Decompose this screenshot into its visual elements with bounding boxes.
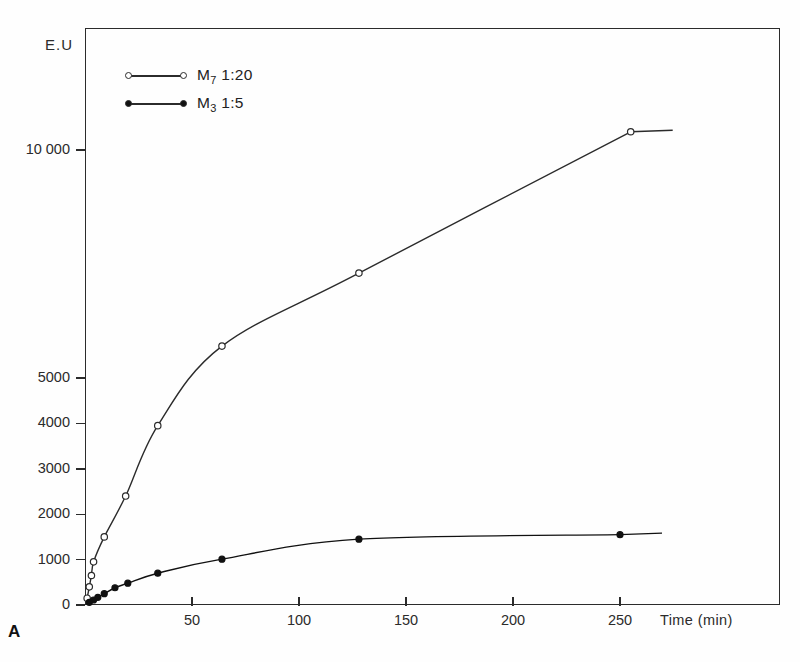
chart-legend: M7 1:20 M3 1:5	[125, 62, 253, 118]
x-tick-mark	[619, 597, 621, 606]
x-tick-label: 250	[600, 612, 640, 628]
y-tick-mark	[76, 604, 85, 606]
y-tick-mark	[76, 423, 85, 425]
panel-label: A	[8, 622, 20, 642]
y-tick-label: 2000	[8, 505, 70, 521]
y-tick-label: 4000	[8, 414, 70, 430]
y-tick-label: 1000	[8, 551, 70, 567]
y-tick-label: 3000	[8, 460, 70, 476]
x-tick-mark	[512, 597, 514, 606]
x-tick-mark	[298, 597, 300, 606]
x-tick-label: 200	[493, 612, 533, 628]
x-tick-label: 50	[172, 612, 212, 628]
legend-marker-open-circle	[125, 69, 187, 83]
y-tick-mark	[76, 468, 85, 470]
y-tick-mark	[76, 559, 85, 561]
y-tick-label: 0	[8, 596, 70, 612]
legend-label-m7: M7 1:20	[197, 66, 253, 86]
y-axis-label: E.U	[45, 36, 73, 53]
x-tick-mark	[191, 597, 193, 606]
y-tick-label: 10 000	[8, 141, 70, 157]
legend-item-m3: M3 1:5	[125, 90, 253, 118]
y-tick-mark	[76, 377, 85, 379]
x-axis-label: Time (min)	[660, 612, 733, 628]
y-tick-label: 5000	[8, 369, 70, 385]
y-tick-mark	[76, 514, 85, 516]
figure-panel: E.U M7 1:20 M3 1:5 010002000300040005000…	[0, 0, 800, 662]
x-tick-label: 100	[279, 612, 319, 628]
x-tick-mark	[405, 597, 407, 606]
legend-label-m3: M3 1:5	[197, 94, 244, 114]
y-tick-mark	[76, 149, 85, 151]
legend-item-m7: M7 1:20	[125, 62, 253, 90]
x-tick-label: 150	[386, 612, 426, 628]
legend-marker-filled-circle	[125, 97, 187, 111]
